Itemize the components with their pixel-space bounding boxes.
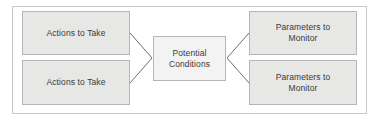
node-label-line1: Potential — [169, 48, 210, 59]
connector-action1-to-center — [130, 33, 152, 58]
node-label-wrap: Parameters to Monitor — [276, 72, 331, 94]
node-parameters-to-monitor-bottom: Parameters to Monitor — [249, 60, 357, 105]
node-actions-to-take-bottom: Actions to Take — [22, 60, 130, 105]
connector-action2-to-center — [130, 58, 152, 83]
connector-center-to-param1 — [227, 33, 249, 58]
diagram-canvas: Actions to Take Actions to Take Potentia… — [0, 0, 379, 123]
node-label: Actions to Take — [47, 28, 106, 39]
node-label-line2: Conditions — [169, 59, 210, 70]
node-actions-to-take-top: Actions to Take — [22, 11, 130, 55]
node-parameters-to-monitor-top: Parameters to Monitor — [249, 11, 357, 55]
node-label-wrap: Parameters to Monitor — [276, 22, 331, 44]
node-label-wrap: Potential Conditions — [169, 48, 210, 70]
node-potential-conditions: Potential Conditions — [153, 36, 226, 81]
node-label: Actions to Take — [47, 77, 106, 88]
node-label-line1: Parameters to — [276, 22, 331, 33]
node-label-line1: Parameters to — [276, 72, 331, 83]
connector-center-to-param2 — [227, 58, 249, 83]
node-label-line2: Monitor — [276, 33, 331, 44]
node-label-line2: Monitor — [276, 83, 331, 94]
